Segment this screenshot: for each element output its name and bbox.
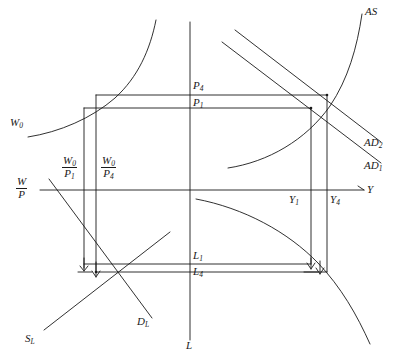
- w0-curve: [28, 20, 156, 137]
- sl-curve: [44, 232, 170, 330]
- labor-level-label-l4: L4: [193, 266, 203, 277]
- real-wage-label-w0-over-p4: W0 P4: [101, 155, 116, 179]
- labor-adjust-arrow-1: [80, 258, 88, 271]
- real-wage-label-w0-over-p1: W0 P1: [62, 155, 77, 179]
- output-adjust-arrow-1: [307, 258, 315, 269]
- axis-label-output: Y: [367, 184, 373, 195]
- labor-level-label-l1: L1: [193, 250, 203, 261]
- curve-label-ad1: AD1: [364, 160, 382, 171]
- curve-label-sl: SL: [25, 333, 35, 344]
- production-function-curve: [196, 199, 370, 344]
- ad2-curve: [235, 30, 381, 142]
- y-axis-arrow-tip-upper: [358, 186, 364, 190]
- price-level-label-p1: P1: [193, 97, 203, 108]
- equilibrium-point-upper-1: [326, 94, 329, 97]
- output-level-label-y4: Y4: [330, 194, 340, 205]
- curve-label-dl: DL: [137, 316, 149, 327]
- output-level-label-y1: Y1: [289, 194, 299, 205]
- dl-curve: [49, 179, 152, 318]
- economics-diagram: AS AD2 AD1 W0 SL DL P4 P1 W0 P1 W0 P4 W …: [0, 0, 400, 358]
- as-curve: [228, 14, 362, 168]
- diagram-canvas: [0, 0, 400, 358]
- price-level-label-p4: P4: [193, 80, 203, 91]
- axis-label-labor: L: [186, 340, 192, 351]
- curve-label-w0: W0: [10, 117, 23, 128]
- axis-label-real-wage: W P: [16, 176, 27, 200]
- equilibrium-point-labor: [95, 271, 98, 274]
- curve-label-as: AS: [365, 6, 377, 17]
- ad1-curve: [222, 42, 381, 163]
- curve-label-ad2: AD2: [364, 137, 382, 148]
- equilibrium-point-upper-2: [310, 107, 313, 110]
